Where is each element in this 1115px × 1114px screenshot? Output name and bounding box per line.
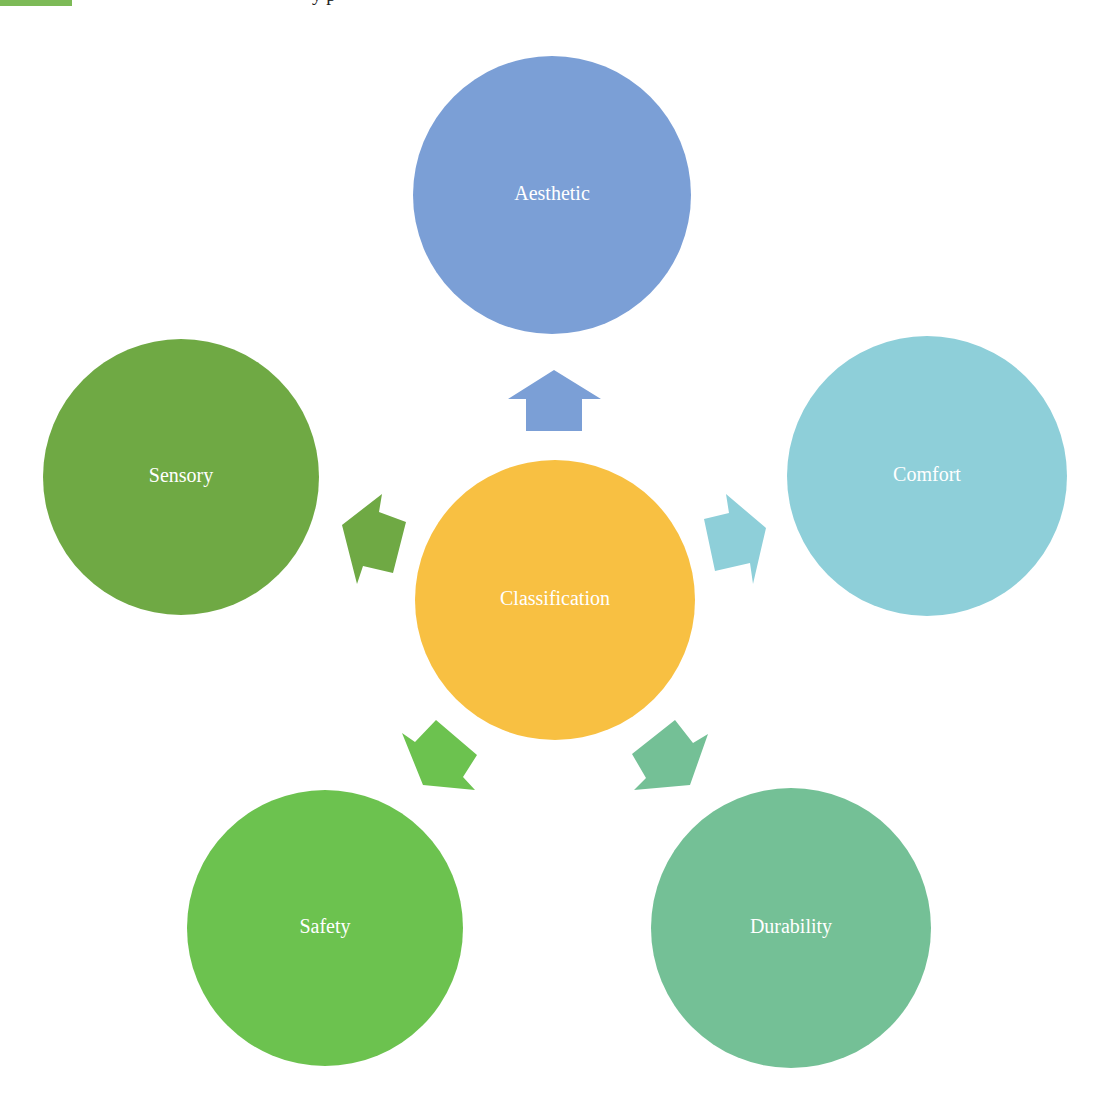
classification-label: Classification bbox=[500, 587, 610, 609]
safety-arrow-icon bbox=[402, 720, 477, 790]
node-aesthetic: Aesthetic bbox=[413, 56, 691, 334]
node-sensory: Sensory bbox=[43, 339, 319, 615]
center-node: Classification bbox=[415, 460, 695, 740]
comfort-label: Comfort bbox=[893, 463, 961, 485]
node-comfort: Comfort bbox=[787, 336, 1067, 616]
aesthetic-label: Aesthetic bbox=[514, 182, 590, 204]
node-safety: Safety bbox=[187, 790, 463, 1066]
node-durability: Durability bbox=[651, 788, 931, 1068]
durability-label: Durability bbox=[750, 915, 832, 938]
classification-diagram: AestheticComfortDurabilitySafetySensory … bbox=[0, 0, 1115, 1114]
comfort-arrow-icon bbox=[704, 494, 766, 584]
durability-arrow-icon bbox=[632, 720, 708, 790]
aesthetic-arrow-icon bbox=[508, 370, 601, 431]
sensory-label: Sensory bbox=[149, 464, 213, 487]
sensory-arrow-icon bbox=[342, 494, 406, 584]
safety-label: Safety bbox=[299, 915, 350, 938]
